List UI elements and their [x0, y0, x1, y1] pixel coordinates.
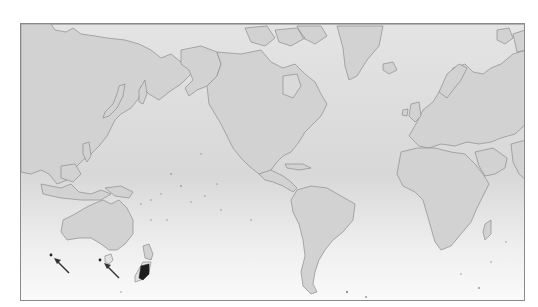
landmass-indonesia — [41, 184, 111, 200]
landmass-iceland — [383, 62, 397, 74]
landmass-tasmania — [105, 254, 113, 264]
marker-dot-2 — [99, 259, 102, 262]
landmass-new-guinea — [105, 186, 133, 198]
landmass-india — [511, 140, 525, 180]
landmass-central-america — [259, 170, 297, 192]
landmass-madagascar — [483, 220, 491, 240]
marker-dot-1 — [50, 254, 53, 257]
landmass-europe — [409, 50, 525, 148]
landmass-british-isles — [402, 102, 421, 122]
world-map-svg — [21, 24, 525, 301]
arrow-icon-2 — [104, 263, 119, 278]
landmass-new-zealand-north — [143, 244, 153, 260]
landmass-arctic-islands — [245, 26, 327, 46]
landmass-east-asia — [21, 24, 197, 184]
arrow-icon-1 — [54, 258, 69, 273]
landmass-north-america — [207, 50, 327, 176]
landmass-borneo — [61, 164, 81, 182]
landmass-africa — [397, 148, 489, 250]
landmass-svalbard — [497, 28, 525, 52]
landmass-south-america — [291, 186, 355, 294]
landmass-caribbean — [285, 164, 311, 170]
landmass-australia — [61, 200, 133, 250]
landmass-greenland — [337, 26, 383, 80]
world-map — [20, 23, 525, 301]
